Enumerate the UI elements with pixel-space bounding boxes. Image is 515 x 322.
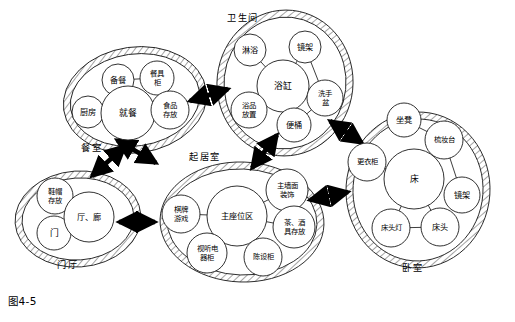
node-mirror1[interactable]: 镜架 — [289, 31, 321, 63]
node-label: 便桶 — [286, 120, 302, 130]
node-tableware[interactable]: 餐具柜 — [140, 61, 174, 95]
zone-label-living: 起居室 — [189, 151, 221, 162]
node-toilet[interactable]: 便桶 — [277, 108, 311, 142]
node-label: 浴品放置 — [242, 101, 256, 119]
node-label: 厅、廊 — [77, 212, 101, 222]
node-bedlamp[interactable]: 床头灯 — [372, 209, 410, 247]
node-teawine[interactable]: 茶、酒具存放 — [273, 206, 315, 248]
node-bedhead[interactable]: 床头 — [421, 208, 459, 246]
node-avcab[interactable]: 视听电器柜 — [187, 233, 227, 273]
node-dresser[interactable]: 梳妆台 — [425, 121, 463, 159]
node-kitchen[interactable]: 厨房 — [72, 96, 104, 128]
node-label: 床头灯 — [381, 223, 403, 232]
node-games[interactable]: 棋牌游戏 — [162, 195, 200, 233]
node-label: 陈设柜 — [253, 252, 275, 261]
node-display[interactable]: 陈设柜 — [244, 238, 282, 276]
zone-label-bathroom: 卫生间 — [227, 12, 259, 23]
node-label: 梳妆台 — [434, 135, 455, 144]
node-hall[interactable]: 厅、廊 — [64, 192, 114, 242]
node-label: 食品存放 — [163, 101, 178, 119]
node-label: 主座位区 — [221, 211, 253, 221]
node-label: 厨房 — [80, 107, 96, 117]
zone-label-dining: 餐室 — [81, 142, 102, 153]
node-wardrobe[interactable]: 更衣柜 — [348, 143, 386, 181]
node-label: 门 — [50, 227, 59, 238]
diagram-canvas: 备餐餐具柜厨房就餐食品存放淋浴镜架浴缸洗手盆浴品放置便桶棋牌游戏主座位区主墙面装… — [0, 0, 515, 322]
zone-label-bedroom: 卧室 — [402, 262, 423, 273]
bubble-diagram: 备餐餐具柜厨房就餐食品存放淋浴镜架浴缸洗手盆浴品放置便桶棋牌游戏主座位区主墙面装… — [0, 0, 515, 322]
node-label: 更衣柜 — [357, 157, 379, 166]
node-label: 备餐 — [110, 75, 126, 85]
zone-label-entry: 门厅 — [57, 259, 78, 270]
node-bed[interactable]: 床 — [384, 149, 444, 209]
node-label: 浴缸 — [274, 80, 292, 91]
node-walldec[interactable]: 主墙面装饰 — [266, 169, 308, 211]
zone-connector-living-bedroom — [310, 192, 348, 200]
figure-caption: 图4-5 — [8, 293, 37, 308]
node-label: 茶、酒具存放 — [284, 218, 306, 236]
node-label: 坐凳 — [396, 115, 412, 125]
node-label: 就餐 — [119, 107, 137, 118]
node-label: 镜架 — [454, 190, 470, 200]
node-foodstore[interactable]: 食品存放 — [151, 91, 189, 129]
node-basin[interactable]: 洗手盆 — [307, 80, 343, 116]
node-label: 鞋帽存放 — [48, 187, 63, 205]
node-label: 床头 — [432, 222, 448, 232]
node-stool[interactable]: 坐凳 — [387, 103, 421, 137]
node-mirror2[interactable]: 镜架 — [444, 177, 480, 213]
node-label: 床 — [410, 173, 419, 184]
node-shower[interactable]: 淋浴 — [234, 34, 266, 66]
node-label: 淋浴 — [242, 45, 258, 55]
nodes-layer: 备餐餐具柜厨房就餐食品存放淋浴镜架浴缸洗手盆浴品放置便桶棋牌游戏主座位区主墙面装… — [37, 31, 480, 276]
node-bathgoods[interactable]: 浴品放置 — [231, 92, 267, 128]
node-label: 棋牌游戏 — [174, 205, 189, 223]
node-eating[interactable]: 就餐 — [101, 86, 155, 140]
node-label: 镜架 — [297, 42, 313, 52]
